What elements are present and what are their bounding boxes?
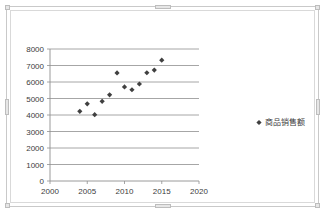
data-point[interactable] bbox=[100, 99, 105, 104]
data-point[interactable] bbox=[122, 84, 127, 89]
y-axis-label-3000: 3000 bbox=[26, 128, 44, 137]
axes-group bbox=[47, 49, 199, 184]
data-point[interactable] bbox=[159, 58, 164, 63]
data-point[interactable] bbox=[144, 70, 149, 75]
x-axis-label-2020: 2020 bbox=[190, 187, 208, 196]
data-points-group bbox=[77, 58, 164, 118]
y-axis-label-4000: 4000 bbox=[26, 111, 44, 120]
data-point[interactable] bbox=[114, 70, 119, 75]
data-point[interactable] bbox=[129, 87, 134, 92]
y-axis-label-6000: 6000 bbox=[26, 78, 44, 87]
x-axis-label-2000: 2000 bbox=[41, 187, 59, 196]
y-axis-label-8000: 8000 bbox=[26, 45, 44, 54]
data-point[interactable] bbox=[107, 92, 112, 97]
legend-marker bbox=[256, 120, 261, 125]
x-axis-label-2010: 2010 bbox=[116, 187, 134, 196]
data-point[interactable] bbox=[77, 109, 82, 114]
y-axis-label-5000: 5000 bbox=[26, 95, 44, 104]
data-point[interactable] bbox=[152, 68, 157, 73]
legend-group: 商品销售额 bbox=[256, 117, 305, 127]
y-axis-label-1000: 1000 bbox=[26, 161, 44, 170]
data-point[interactable] bbox=[85, 101, 90, 106]
x-axis-label-2015: 2015 bbox=[153, 187, 171, 196]
y-axis-label-7000: 7000 bbox=[26, 62, 44, 71]
xtick-labels-group: 20002005201020152020 bbox=[41, 187, 208, 196]
chart-object[interactable]: 010002000300040005000600070008000 200020… bbox=[6, 6, 319, 207]
screenshot-root: 010002000300040005000600070008000 200020… bbox=[0, 0, 325, 213]
ytick-labels-group: 010002000300040005000600070008000 bbox=[26, 45, 44, 186]
scatter-chart[interactable]: 010002000300040005000600070008000 200020… bbox=[7, 7, 320, 208]
legend-label: 商品销售额 bbox=[265, 117, 305, 127]
y-axis-label-2000: 2000 bbox=[26, 144, 44, 153]
y-axis-label-0: 0 bbox=[40, 177, 45, 186]
chart-plot-wrapper: 010002000300040005000600070008000 200020… bbox=[7, 7, 320, 208]
data-point[interactable] bbox=[92, 112, 97, 117]
gridlines-group bbox=[50, 49, 199, 165]
x-axis-label-2005: 2005 bbox=[78, 187, 96, 196]
